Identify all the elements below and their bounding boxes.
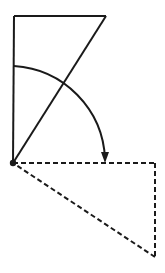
hypotenuse-edge (13, 16, 106, 163)
diagonal-dashed-edge (13, 163, 155, 257)
dashed-triangle (13, 163, 155, 257)
geometry-svg (0, 0, 165, 273)
left-vertical-edge (13, 16, 14, 163)
rotation-arc-group (14, 66, 109, 163)
diagram-canvas (0, 0, 165, 273)
origin-vertex (10, 160, 16, 166)
arc-arrowhead (101, 152, 109, 163)
rotation-arc (14, 66, 105, 159)
solid-triangle (13, 16, 106, 163)
